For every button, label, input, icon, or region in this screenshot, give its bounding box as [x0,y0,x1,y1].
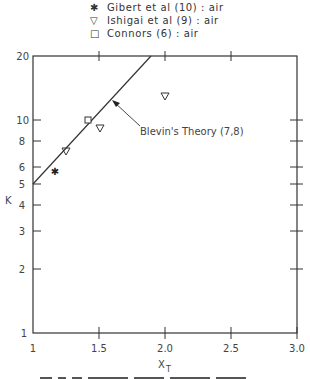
triangle-marker [161,93,169,100]
legend-symbol-asterisk: ✱ [90,2,99,13]
y-tick-8: 8 [19,136,25,147]
y-tick-labels: 20 10 8 6 5 4 3 2 1 [16,51,29,339]
legend-symbol-square: □ [90,28,100,39]
y-tick-6: 6 [19,162,25,173]
y-tick-1: 1 [21,328,27,339]
x-tick-2-0: 2.0 [157,343,173,354]
x-axis-label-subscript: T [165,365,171,374]
legend: ✱ Gibert et al (10) : air ▽ Ishigai et a… [90,2,224,39]
legend-label-connors: Connors (6) : air [107,28,199,39]
legend-label-ishigai: Ishigai et al (9) : air [107,15,219,26]
triangle-marker [96,125,104,132]
x-tick-3-0: 3.0 [289,343,305,354]
chart-figure: ✱ Gibert et al (10) : air ▽ Ishigai et a… [0,0,310,379]
x-axis-label: X T [158,359,171,374]
y-axis-ticks-left [33,120,41,269]
legend-label-gibert: Gibert et al (10) : air [107,2,224,13]
plot-frame [33,56,297,333]
annotation-arrow [112,100,140,126]
y-tick-2: 2 [19,264,25,275]
y-tick-4: 4 [19,200,25,211]
x-axis-label-main: X [158,359,165,370]
x-tick-labels: 1 1.5 2.0 2.5 3.0 [30,343,305,354]
y-tick-20: 20 [16,51,29,62]
asterisk-marker: ✱ [51,166,59,177]
x-tick-1-5: 1.5 [91,343,107,354]
y-tick-10: 10 [16,115,29,126]
series-connors [85,117,91,123]
y-axis-label: K [5,195,12,206]
y-tick-5: 5 [19,179,25,190]
square-marker [85,117,91,123]
series-gibert: ✱ [51,166,59,177]
legend-symbol-triangle: ▽ [90,15,98,26]
blevin-theory-label: Blevin's Theory (7,8) [140,126,244,137]
x-tick-2-5: 2.5 [223,343,239,354]
y-tick-3: 3 [19,226,25,237]
x-tick-1: 1 [30,343,36,354]
